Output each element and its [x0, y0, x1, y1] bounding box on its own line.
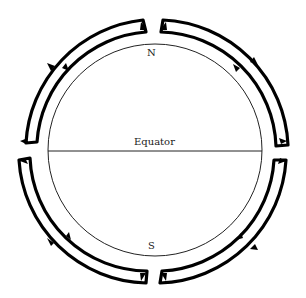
- south-pole-label: S: [148, 240, 155, 251]
- equator-label: Equator: [134, 136, 175, 147]
- circulation-diagram: [0, 0, 306, 298]
- cell-loop-south-east: [160, 160, 286, 283]
- arrow-icon: [250, 244, 258, 250]
- globe-circle: [48, 44, 262, 256]
- cell-loop-south-west: [19, 158, 147, 283]
- cell-loop-north-west: [26, 20, 146, 143]
- cell-loop-north-east: [161, 20, 288, 146]
- north-pole-label: N: [147, 47, 156, 58]
- arrow-icon: [279, 138, 287, 144]
- arrow-icon: [62, 63, 69, 71]
